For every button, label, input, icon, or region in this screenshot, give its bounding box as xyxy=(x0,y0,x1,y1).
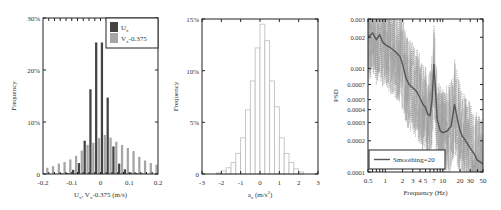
y-axis-label: Frequency xyxy=(10,81,18,111)
bar-vx xyxy=(58,164,60,174)
velocity-histogram-chart: 010%20%30%-0.2-0.100.10.2Ux, Vx-0.375 (m… xyxy=(0,0,170,210)
bar-ax xyxy=(246,110,251,174)
y-tick-label: 20% xyxy=(27,67,40,75)
x-tick-label: -1 xyxy=(238,179,244,187)
bar-vx xyxy=(109,138,111,174)
bar-ax xyxy=(236,153,241,174)
bar-ux xyxy=(124,169,126,174)
x-tick-label: 10 xyxy=(439,177,447,185)
bar-ax xyxy=(260,24,265,174)
legend-label-vx: Vx-0.375 xyxy=(121,35,147,44)
y-tick-label: 0.0004 xyxy=(347,106,366,113)
bar-ux xyxy=(101,42,103,174)
bar-ax xyxy=(294,169,299,174)
bar-vx xyxy=(115,142,117,174)
ux-histogram-panel: 010%20%30%-0.2-0.100.10.2Ux, Vx-0.375 (m… xyxy=(0,0,170,210)
y-tick-label: 0 xyxy=(37,171,41,179)
y-axis-label: PSD xyxy=(332,89,340,102)
bar-vx xyxy=(98,138,100,174)
bar-ax xyxy=(279,138,284,174)
x-tick-label: 2 xyxy=(297,179,301,187)
x-tick-label: -0.1 xyxy=(66,179,78,187)
plot-area xyxy=(217,24,304,174)
x-tick-label: 1 xyxy=(384,177,388,185)
bar-ux xyxy=(84,141,86,174)
legend-label-smoothing: Smoothing=20 xyxy=(393,156,435,164)
bar-vx xyxy=(86,145,88,174)
x-tick-label: 3 xyxy=(411,177,415,185)
x-tick-label: 0.2 xyxy=(154,179,163,187)
x-axis-label: ax (m/s2) xyxy=(248,190,273,200)
bar-vx xyxy=(104,135,106,174)
x-tick-label: 50 xyxy=(480,177,488,185)
x-tick-label: 0.1 xyxy=(125,179,134,187)
bar-vx xyxy=(69,159,71,174)
bar-ax xyxy=(226,168,231,174)
legend-swatch-vx xyxy=(110,33,118,43)
bar-ax xyxy=(289,163,294,174)
y-axis-label: Frequency xyxy=(172,81,180,111)
y-tick-label: 0 xyxy=(196,171,200,179)
x-tick-label: 3 xyxy=(316,179,320,187)
plot-area xyxy=(46,42,158,174)
ax-histogram-panel: 05%10%15%-3-2-10123ax (m/s2)Frequency xyxy=(170,0,330,210)
y-tick-label: 0.0001 xyxy=(347,169,365,176)
y-tick-label: 0.001 xyxy=(350,65,365,72)
y-tick-label: 0.002 xyxy=(350,34,365,41)
y-tick-label: 10% xyxy=(186,68,199,76)
bar-vx xyxy=(75,156,77,174)
bar-vx xyxy=(63,162,65,174)
x-tick-label: -3 xyxy=(199,179,205,187)
bar-vx xyxy=(155,165,157,174)
x-tick-label: 0.5 xyxy=(364,177,373,185)
y-tick-label: 15% xyxy=(186,16,199,24)
bar-ux xyxy=(118,164,120,174)
x-axis-label: Frequency (Hz) xyxy=(403,189,448,197)
bar-vx xyxy=(132,151,134,174)
bar-vx xyxy=(127,148,129,174)
bar-vx xyxy=(138,157,140,174)
x-tick-label: 4 xyxy=(418,177,422,185)
x-tick-label: -2 xyxy=(218,179,224,187)
y-tick-label: 30% xyxy=(27,15,40,23)
bar-vx xyxy=(52,166,54,174)
y-tick-label: 0.0007 xyxy=(347,81,366,88)
acceleration-histogram-chart: 05%10%15%-3-2-10123ax (m/s2)Frequency xyxy=(170,0,330,210)
bar-ax xyxy=(255,48,260,174)
legend: UxVx-0.375 xyxy=(106,18,158,48)
bar-ux xyxy=(89,89,91,174)
legend-swatch-ux xyxy=(110,22,118,32)
bar-vx xyxy=(92,143,94,174)
psd-panel: 0.00010.00020.00030.00040.00050.00070.00… xyxy=(330,0,501,210)
bar-ax xyxy=(275,107,280,174)
bar-ax xyxy=(270,81,275,174)
x-tick-label: 5 xyxy=(424,177,428,185)
psd-chart: 0.00010.00020.00030.00040.00050.00070.00… xyxy=(330,0,501,210)
bar-vx xyxy=(150,163,152,174)
x-tick-label: -0.2 xyxy=(37,179,49,187)
bar-vx xyxy=(144,160,146,174)
x-tick-label: 30 xyxy=(467,177,475,185)
bar-ux xyxy=(78,163,80,174)
bar-vx xyxy=(46,168,48,174)
bar-ux xyxy=(112,146,114,174)
x-tick-label: 0 xyxy=(258,179,262,187)
y-tick-label: 0.0003 xyxy=(347,119,365,126)
bar-ax xyxy=(265,41,270,174)
legend: Smoothing=20 xyxy=(369,150,445,169)
x-tick-label: 20 xyxy=(457,177,465,185)
y-tick-label: 0.003 xyxy=(350,16,365,23)
bar-vx xyxy=(81,151,83,174)
y-tick-label: 0.0005 xyxy=(347,96,365,103)
y-tick-label: 5% xyxy=(190,119,200,127)
bar-ux xyxy=(107,98,109,174)
y-tick-label: 10% xyxy=(27,119,40,127)
y-tick-label: 0.0002 xyxy=(347,137,365,144)
bar-ax xyxy=(231,163,236,174)
x-axis-label: Ux, Vx-0.375 (m/s) xyxy=(74,191,128,200)
x-tick-label: 1 xyxy=(278,179,282,187)
bar-ux xyxy=(72,170,74,174)
x-tick-label: 0 xyxy=(99,179,103,187)
bar-ux xyxy=(95,42,97,174)
bar-ax xyxy=(284,153,289,174)
